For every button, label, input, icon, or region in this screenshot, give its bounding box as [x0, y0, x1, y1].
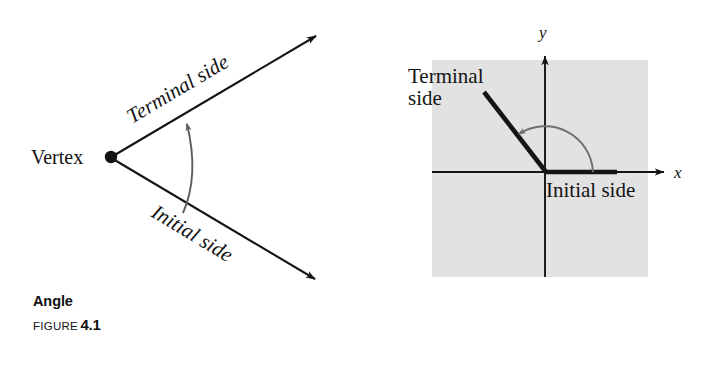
- figure-angle: Vertex Terminal side Initial side Angle …: [0, 0, 354, 376]
- terminal-side-label-line1: Terminal: [408, 64, 484, 88]
- caption-title: Angle: [33, 293, 101, 310]
- initial-side-label: Initial side: [147, 199, 238, 267]
- vertex-dot: [105, 151, 117, 163]
- figure-caption: Angle FIGURE4.1: [33, 293, 101, 335]
- standard-position-diagram: y x Terminal side Initial side: [354, 0, 708, 376]
- rotation-arc: [183, 124, 192, 213]
- caption-figure-line: FIGURE4.1: [33, 316, 101, 335]
- figure-number: 4.1: [80, 316, 100, 333]
- terminal-side-label-line2: side: [408, 86, 442, 110]
- vertex-label: Vertex: [31, 146, 83, 168]
- y-axis-label: y: [537, 23, 547, 42]
- terminal-side-label: Terminal side: [122, 49, 232, 128]
- initial-side-ray: [113, 159, 315, 279]
- figure-word: FIGURE: [33, 320, 78, 332]
- coordinate-plane-background: [432, 60, 648, 277]
- initial-side-label: Initial side: [546, 178, 635, 202]
- x-axis-label: x: [673, 163, 682, 182]
- figure-angle-standard-position: y x Terminal side Initial side Angle in …: [354, 0, 708, 376]
